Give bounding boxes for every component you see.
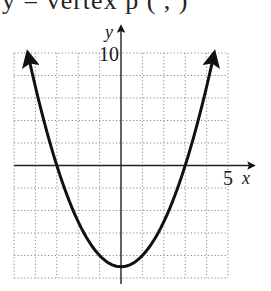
y-tick-label-10: 10: [99, 43, 119, 65]
parabola-graph: y 10 5 x: [0, 0, 271, 291]
axes: [14, 26, 254, 284]
x-axis-label: x: [241, 168, 250, 188]
x-tick-label-5: 5: [223, 167, 233, 189]
y-axis-label: y: [103, 22, 113, 42]
